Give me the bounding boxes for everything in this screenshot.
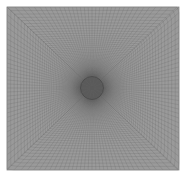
- domain-boundary-rect: [7, 7, 179, 170]
- mesh-figure: Structured O-Grid Mesh Around Circular H…: [0, 0, 186, 176]
- mesh-overlay: [0, 0, 186, 176]
- hole-outline-circle: [81, 77, 104, 100]
